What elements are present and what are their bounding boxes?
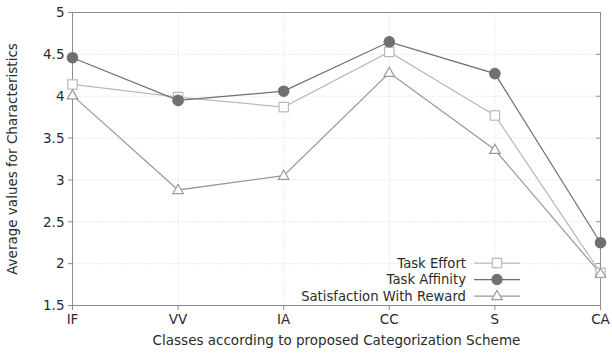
y-tick-label: 2.5 [43,214,64,230]
series-task-affinity-point-1-marker-circle [173,95,183,105]
series-satisfaction-with-reward-point-3-marker-triangle [384,67,394,76]
legend-marker-square [492,258,501,267]
chart-figure: 1.522.533.544.55IFVVIACCSCAClasses accor… [0,0,612,358]
legend-item[interactable]: Satisfaction With Reward [301,289,520,304]
y-tick-label: 1.5 [43,297,64,313]
series-task-effort-point-2-marker-square [279,102,288,111]
x-tick-label: S [491,311,500,327]
legend-item[interactable]: Task Affinity [386,272,520,287]
legend-label: Task Affinity [386,272,467,287]
series-task-effort-point-0-marker-square [68,80,77,89]
legend-label: Task Effort [396,256,466,271]
series-line-task-effort [73,52,601,273]
legend-label: Satisfaction With Reward [301,289,466,304]
series-task-effort-point-3-marker-square [385,47,394,56]
legend-marker-circle [492,274,502,284]
series-task-effort-point-4-marker-square [490,111,499,120]
y-tick-label: 3 [56,172,65,188]
x-tick-label: CC [380,311,399,327]
y-tick-label: 5 [56,4,65,20]
series-satisfaction-with-reward-point-4-marker-triangle [490,144,500,153]
series-task-affinity-point-4-marker-circle [490,68,500,78]
y-tick-label: 4 [56,88,65,104]
x-tick-label: IA [277,311,291,327]
x-tick-label: CA [591,311,610,327]
y-tick-label: 2 [56,255,65,271]
x-tick-label: IF [67,311,79,327]
series-task-affinity-point-2-marker-circle [279,86,289,96]
legend-item[interactable]: Task Effort [396,256,520,271]
y-tick-label: 3.5 [43,130,64,146]
series-task-affinity-point-0-marker-circle [67,53,77,63]
line-chart: 1.522.533.544.55IFVVIACCSCAClasses accor… [0,0,612,358]
plot-frame [73,13,601,306]
x-tick-label: VV [169,311,188,327]
x-axis-title: Classes according to proposed Categoriza… [153,332,521,348]
series-line-task-affinity [73,42,601,243]
legend-marker-triangle [492,290,502,299]
series-task-affinity-point-3-marker-circle [384,37,394,47]
series-satisfaction-with-reward-point-0-marker-triangle [67,90,77,99]
series-task-affinity-point-5-marker-circle [595,238,605,248]
series-line-satisfaction-with-reward [73,73,601,274]
y-tick-label: 4.5 [43,46,64,62]
y-axis-title: Average values for Characteristics [4,43,20,275]
